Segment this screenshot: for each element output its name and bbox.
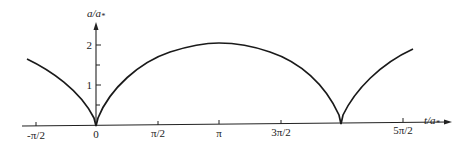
x-tick-label: 0	[93, 128, 99, 140]
y-tick-label: 2	[87, 39, 93, 51]
x-axis-arrow-icon	[444, 120, 452, 125]
x-tick-label: π	[216, 127, 222, 139]
y-axis-label: a/a*	[87, 7, 105, 21]
y-ticks	[96, 45, 101, 105]
y-axis-arrow-icon	[94, 22, 99, 30]
x-tick-label: π/2	[151, 127, 165, 139]
x-tick-label: 3π/2	[271, 126, 291, 138]
x-axis	[22, 122, 448, 126]
x-tick-label: 5π/2	[393, 124, 413, 136]
x-axis-label: t/a*	[424, 114, 440, 128]
x-ticks	[36, 118, 403, 126]
chart-canvas: -π/2 0 π/2 π 3π/2 5π/2 2 1 a/a* t/a*	[0, 0, 457, 146]
x-tick-label: -π/2	[27, 129, 45, 141]
y-tick-label: 1	[87, 79, 93, 91]
cycloid-curve	[27, 43, 413, 126]
